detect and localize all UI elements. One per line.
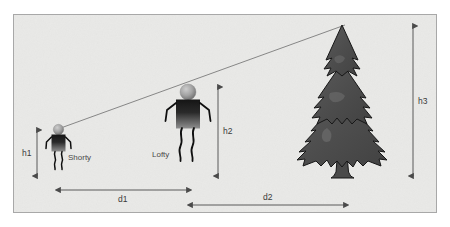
h3-label: h3 xyxy=(418,96,428,106)
d1-label: d1 xyxy=(118,194,128,204)
shorty-torso xyxy=(52,135,66,152)
d2-label: d2 xyxy=(263,192,273,202)
panel-texture xyxy=(14,15,436,212)
h2-label: h2 xyxy=(223,126,233,136)
lofty-torso xyxy=(176,100,200,129)
diagram-canvas: Shorty Lofty h1 h2 xyxy=(0,0,450,227)
label-lofty: Lofty xyxy=(152,150,169,159)
h1-label: h1 xyxy=(22,148,32,158)
label-shorty: Shorty xyxy=(68,153,91,162)
shorty-head xyxy=(53,124,63,134)
diagram-svg: Shorty Lofty h1 h2 xyxy=(0,0,450,227)
lofty-head xyxy=(180,84,196,100)
